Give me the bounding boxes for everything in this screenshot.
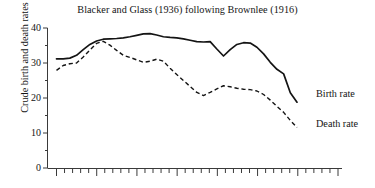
y-axis (43, 28, 48, 168)
x-axis (48, 169, 343, 177)
series-lines (57, 34, 298, 128)
x-axis-ticks (57, 169, 339, 177)
legend-label-death-rate: Death rate (316, 118, 358, 129)
y-axis-ticks (43, 28, 48, 168)
legend-label-birth-rate: Birth rate (316, 88, 355, 99)
chart-figure: Blacker and Glass (1936) following Brown… (0, 0, 375, 188)
line-death-rate (57, 41, 298, 127)
line-birth-rate (57, 34, 298, 103)
